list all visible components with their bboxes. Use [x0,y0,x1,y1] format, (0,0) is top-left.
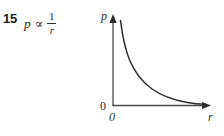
origin-label-x: 0 [109,110,115,124]
formula-variable-p: p [24,16,31,32]
fraction-one-over-r: 1 r [47,11,56,36]
inverse-proportion-curve [121,21,206,105]
graph-sketch: p r 0 0 [96,6,224,132]
question-number: 15 [3,11,17,27]
answer-block: 15 p ∝ 1 r [3,11,56,36]
origin-label-y: 0 [100,99,106,113]
formula-expression: p ∝ 1 r [24,11,56,36]
proportional-to-symbol: ∝ [35,16,43,32]
fraction-denominator: r [50,24,54,36]
answer-page: 15 p ∝ 1 r p [0,0,224,136]
y-axis-arrowhead [109,14,116,23]
y-axis-label: p [100,9,107,23]
y-axis [109,14,116,106]
fraction-numerator: 1 [49,11,55,23]
x-axis-arrowhead [202,102,211,109]
x-axis-label: r [208,110,213,124]
